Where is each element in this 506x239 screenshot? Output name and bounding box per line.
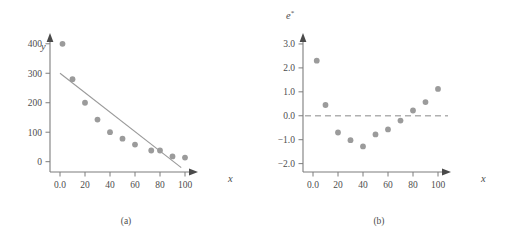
y-tick-label: 3.0 xyxy=(283,39,295,49)
residual-analysis-figure: 0.0204060801000100200300400 y x (a) 0.02… xyxy=(0,0,506,239)
panel-a-plot: 0.0204060801000100200300400 y x (a) xyxy=(0,0,253,239)
panel-b-y-axis-title: e* xyxy=(286,9,295,21)
data-point xyxy=(360,143,366,149)
panel-b-y-axis-title-superscript: * xyxy=(291,9,295,17)
x-tick-label: 80 xyxy=(155,180,165,190)
panel-b-x-axis-title: x xyxy=(480,173,486,184)
x-tick-label: 100 xyxy=(178,180,193,190)
data-point xyxy=(423,99,429,105)
panel-a-axes xyxy=(46,33,199,177)
data-point xyxy=(70,76,76,82)
panel-a-data-points xyxy=(60,41,188,161)
data-point xyxy=(148,148,154,154)
data-point xyxy=(120,136,126,142)
panel-b-data-points xyxy=(314,58,441,149)
panel-b-plot: 0.020406080100−2.0−1.00.01.02.03.0 e* x … xyxy=(253,0,506,239)
data-point xyxy=(435,86,441,92)
data-point xyxy=(170,153,176,159)
x-tick-label: 0.0 xyxy=(307,180,319,190)
y-tick-label: −2.0 xyxy=(278,159,295,169)
panel-a-y-axis-title: y xyxy=(40,41,46,52)
data-point xyxy=(385,127,391,133)
panel-a-x-axis-title: x xyxy=(227,173,233,184)
x-tick-label: 40 xyxy=(358,180,368,190)
panel-b-axes xyxy=(299,33,452,177)
y-tick-label: 2.0 xyxy=(283,63,295,73)
data-point xyxy=(60,41,66,47)
y-tick-label: 1.0 xyxy=(283,87,295,97)
least-squares-fit-line xyxy=(60,73,181,167)
data-point xyxy=(335,130,341,136)
y-tick-label: 200 xyxy=(28,98,43,108)
x-tick-label: 20 xyxy=(80,180,90,190)
y-tick-label: 100 xyxy=(28,128,43,138)
panel-a-fit-line xyxy=(60,73,181,167)
y-tick-label: 300 xyxy=(28,69,43,79)
data-point xyxy=(323,102,329,108)
panel-a-tick-labels: 0.0204060801000100200300400 xyxy=(28,39,193,190)
panel-b-caption: (b) xyxy=(373,216,384,227)
x-tick-label: 60 xyxy=(130,180,140,190)
x-axis-arrow-icon xyxy=(189,169,198,176)
data-point xyxy=(107,129,113,135)
data-point xyxy=(314,58,320,64)
x-tick-label: 80 xyxy=(408,180,418,190)
x-tick-label: 40 xyxy=(105,180,115,190)
data-point xyxy=(398,118,404,124)
data-point xyxy=(410,108,416,114)
panel-a-caption: (a) xyxy=(121,216,132,227)
y-tick-label: 0.0 xyxy=(283,111,295,121)
x-axis-arrow-icon xyxy=(442,169,451,176)
data-point xyxy=(157,148,163,154)
data-point xyxy=(348,137,354,143)
data-point xyxy=(132,142,138,148)
x-tick-label: 0.0 xyxy=(54,180,66,190)
y-tick-label: 0 xyxy=(37,157,42,167)
data-point xyxy=(373,132,379,138)
x-tick-label: 20 xyxy=(333,180,343,190)
data-point xyxy=(95,117,101,123)
x-tick-label: 60 xyxy=(383,180,393,190)
x-tick-label: 100 xyxy=(431,180,446,190)
y-axis-arrow-icon xyxy=(47,33,54,42)
panel-a-scatter-with-fit: 0.0204060801000100200300400 y x (a) xyxy=(0,0,253,239)
data-point xyxy=(82,100,88,106)
y-tick-label: −1.0 xyxy=(278,135,295,145)
panel-b-residual-plot: 0.020406080100−2.0−1.00.01.02.03.0 e* x … xyxy=(253,0,506,239)
data-point xyxy=(182,155,188,161)
y-axis-arrow-icon xyxy=(300,33,307,42)
